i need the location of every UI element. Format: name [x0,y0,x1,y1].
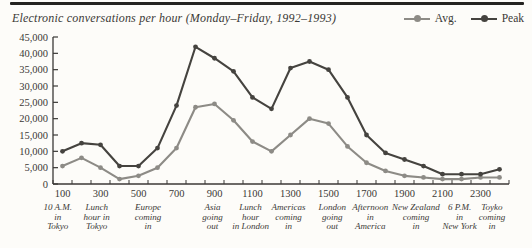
y-tick-label: 25,000 [19,97,48,108]
y-tick-label: 40,000 [19,48,48,59]
annotation-line: out [327,221,339,231]
x-axis-annotations: 10 A.M.inTokyoLunchhour inTokyoEuropecom… [43,202,505,231]
x-tick-label: 500 [131,188,147,199]
data-point [478,172,483,177]
annotation-line: in [412,221,420,231]
annotation-line: New Zealand [391,202,440,212]
x-tick-label: 1100 [242,188,263,199]
y-axis-labels: 05,00010,00015,00020,00025,00030,00035,0… [19,32,58,190]
data-point [440,177,445,182]
axes [53,37,509,184]
annotation-line: Tokyo [86,221,108,231]
data-point [79,155,84,160]
data-point [231,118,236,123]
x-tick-label: 100 [55,188,71,199]
annotation-line: Lunch [238,202,262,212]
data-point [326,67,331,72]
data-point [79,141,84,146]
data-point [250,95,255,100]
data-point [440,172,445,177]
x-tick-label: 700 [169,188,185,199]
annotation-line: in London [232,221,269,231]
data-point [326,121,331,126]
annotation-line: Tokyo [47,221,69,231]
data-point [155,146,160,151]
annotation-line: coming [135,212,162,222]
data-point [421,175,426,180]
y-tick-label: 10,000 [19,146,48,157]
data-point [60,164,65,169]
x-tick-label: 300 [93,188,109,199]
data-point [497,167,502,172]
series-avg [60,102,502,182]
annotation-line: Europe [134,202,161,212]
data-point [459,172,464,177]
annotation-line: Americas [271,202,306,212]
annotation-line: America [354,221,386,231]
data-point [155,165,160,170]
data-point [231,69,236,74]
annotation-line: Afternoon [351,202,388,212]
x-tick-label: 1300 [280,188,301,199]
data-point [269,106,274,111]
chart-svg: 05,00010,00015,00020,00025,00030,00035,0… [0,0,532,248]
data-point [136,173,141,178]
data-point [193,105,198,110]
data-point [117,177,122,182]
data-point [98,165,103,170]
data-point [136,164,141,169]
y-tick-label: 5,000 [24,162,48,173]
annotation-line: in [488,221,496,231]
data-point [269,149,274,154]
data-point [250,139,255,144]
annotation-line: hour in [84,212,111,222]
data-point [421,164,426,169]
x-tick-label: 1500 [318,188,339,199]
y-tick-label: 35,000 [19,64,48,75]
data-point [307,59,312,64]
x-tick-label: 2100 [432,188,453,199]
data-point [174,103,179,108]
x-tick-label: 900 [207,188,223,199]
y-tick-label: 30,000 [19,81,48,92]
data-point [288,66,293,71]
annotation-line: in [144,221,152,231]
data-point [459,177,464,182]
data-point [402,173,407,178]
x-tick-label: 1700 [356,188,377,199]
data-point [497,175,502,180]
annotation-line: coming [403,212,430,222]
annotation-line: out [207,221,219,231]
annotation-line: Toyko [481,202,503,212]
data-point [212,56,217,61]
data-point [345,95,350,100]
x-axis-labels: 1003005007009001100130015001700190021002… [53,180,509,199]
data-point [98,142,103,147]
annotation-line: in [285,221,293,231]
annotation-line: New York [441,221,477,231]
data-point [307,116,312,121]
data-point [174,146,179,151]
y-tick-label: 0 [43,179,48,190]
data-point [60,149,65,154]
y-tick-label: 45,000 [19,32,48,43]
annotation-line: coming [479,212,506,222]
annotation-line: Asia [204,202,222,212]
data-point [402,157,407,162]
data-point [364,133,369,138]
x-tick-label: 2300 [470,188,491,199]
data-point [364,160,369,165]
data-point [117,164,122,169]
x-tick-label: 1900 [394,188,415,199]
series-peak [60,44,502,176]
annotation-line: 6 P.M. [448,202,471,212]
y-tick-label: 20,000 [19,113,48,124]
annotation-line: in [367,212,375,222]
annotation-line: in [54,212,62,222]
y-tick-label: 15,000 [19,130,48,141]
annotation-line: Lunch [84,202,108,212]
data-point [383,151,388,156]
data-point [193,44,198,49]
annotation-line: London [318,202,347,212]
data-point [383,169,388,174]
